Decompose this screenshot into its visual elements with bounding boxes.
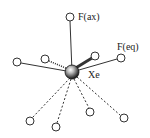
atom-bottom-2 — [52, 123, 60, 131]
atom-left-near — [41, 55, 49, 63]
xe-coordination-diagram: F(ax) F(eq) Xe — [0, 0, 150, 138]
atom-bottom-1 — [26, 117, 34, 125]
xe-atom — [65, 65, 79, 79]
bond-bottom-3 — [74, 79, 89, 108]
bond-left-far — [21, 63, 72, 72]
atom-left-far — [13, 58, 21, 66]
bond-left-near — [49, 61, 68, 69]
label-f-eq: F(eq) — [117, 41, 139, 53]
bond-f-ax — [70, 21, 72, 72]
atom-f-ax — [66, 13, 74, 21]
atom-bottom-4 — [120, 114, 128, 122]
atom-f-eq — [117, 54, 125, 62]
atom-right-near — [91, 52, 99, 60]
label-xe: Xe — [88, 69, 100, 80]
atom-bottom-3 — [86, 108, 94, 116]
label-f-ax: F(ax) — [78, 11, 100, 23]
bond-bottom-4 — [77, 77, 120, 115]
bond-bottom-1 — [33, 78, 70, 117]
bond-bottom-2 — [57, 79, 71, 123]
